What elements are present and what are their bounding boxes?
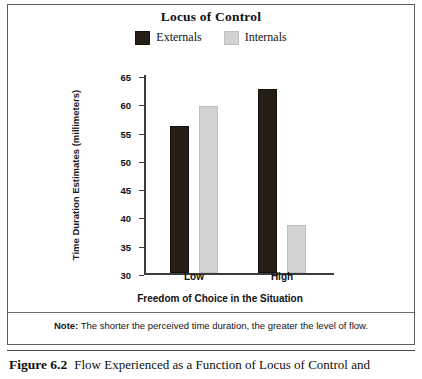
note-text: The shorter the perceived time duration,… — [81, 320, 368, 331]
plot-area: Time Duration Estimates (millimeters) 65… — [104, 67, 336, 283]
note-label: Note: — [54, 320, 78, 331]
legend-label-externals: Externals — [156, 30, 201, 45]
y-axis-tick-label: 50 — [120, 156, 131, 167]
x-axis-line — [144, 273, 334, 275]
y-axis-tick: 65 — [139, 77, 144, 78]
x-axis-tick-label: Low — [184, 271, 204, 282]
legend-swatch-internals — [224, 31, 239, 45]
legend-label-internals: Internals — [245, 30, 287, 45]
bar-group — [170, 75, 218, 273]
legend-swatch-externals — [135, 31, 150, 45]
bar-internals-high — [287, 225, 306, 273]
note-divider — [8, 312, 414, 313]
caption-number: Figure 6.2 — [9, 357, 67, 372]
y-axis-tick-label: 45 — [120, 185, 131, 196]
chart-title: Locus of Control — [8, 9, 414, 25]
y-axis-tick-label: 65 — [120, 72, 131, 83]
y-axis-tick: 50 — [139, 162, 144, 163]
y-axis-tick: 40 — [139, 218, 144, 219]
y-axis-tick-label: 55 — [120, 128, 131, 139]
chart-note: Note: The shorter the perceived time dur… — [8, 320, 414, 331]
y-axis-tick: 45 — [139, 190, 144, 191]
x-axis-title: Freedom of Choice in the Situation — [104, 293, 336, 304]
bar-externals-low — [170, 126, 189, 273]
y-axis-title: Time Duration Estimates (millimeters) — [70, 67, 86, 283]
y-axis-tick-label: 40 — [120, 213, 131, 224]
chart-legend: Externals Internals — [8, 30, 414, 45]
y-axis-tick: 35 — [139, 247, 144, 248]
y-axis-tick: 55 — [139, 134, 144, 135]
axes: 6560555045403530 — [144, 75, 334, 275]
figure-caption: Figure 6.2Flow Experienced as a Function… — [9, 357, 415, 373]
figure-root: Locus of Control Externals Internals Tim… — [0, 0, 422, 379]
bars-layer — [146, 75, 334, 273]
caption-rule — [7, 350, 415, 351]
chart-frame: Locus of Control Externals Internals Tim… — [7, 4, 415, 345]
y-axis-tick-label: 30 — [120, 270, 131, 281]
x-axis-tick-label: High — [271, 271, 293, 282]
bar-internals-low — [199, 106, 218, 273]
bar-group — [258, 75, 306, 273]
y-axis-tick-label: 60 — [120, 100, 131, 111]
legend-entry-internals: Internals — [224, 30, 287, 45]
legend-entry-externals: Externals — [135, 30, 201, 45]
caption-text: Flow Experienced as a Function of Locus … — [74, 357, 370, 372]
bar-externals-high — [258, 89, 277, 273]
y-axis-tick: 60 — [139, 105, 144, 106]
y-axis-tick: 30 — [139, 275, 144, 276]
y-axis-tick-label: 35 — [120, 241, 131, 252]
